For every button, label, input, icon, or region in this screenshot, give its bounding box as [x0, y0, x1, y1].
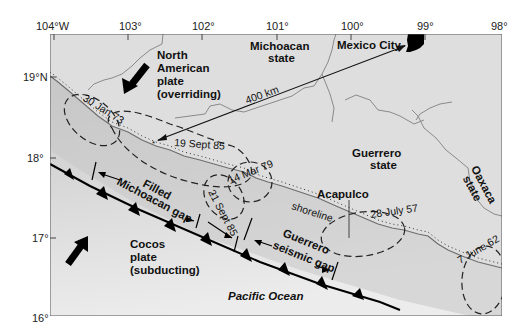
tick-18: 18° — [27, 152, 44, 164]
epicenter-marker-19-sept-85: * — [152, 139, 155, 148]
tick-16: 16° — [32, 312, 49, 324]
seismic-gap-map: 104°W 103° 102° 101° 100° 99° 98° 19°N 1… — [0, 0, 528, 334]
svg-text:North: North — [157, 49, 188, 61]
tick-99: 99° — [417, 20, 434, 32]
tick-98: 98° — [491, 20, 508, 32]
pacific-ocean-label: Pacific Ocean — [228, 290, 303, 302]
tick-102: 102° — [192, 20, 215, 32]
tick-19n: 19°N — [23, 71, 48, 83]
svg-text:Michoacan: Michoacan — [250, 40, 309, 52]
tick-100: 100° — [341, 20, 364, 32]
mexico-city-label: Mexico City — [337, 39, 402, 51]
svg-text:state: state — [370, 159, 397, 171]
tick-101: 101° — [266, 20, 289, 32]
tick-17: 17° — [32, 232, 49, 244]
svg-text:(subducting): (subducting) — [130, 264, 200, 276]
acapulco-label: Acapulco — [317, 188, 369, 200]
svg-text:plate: plate — [130, 251, 157, 263]
longitude-axis: 104°W 103° 102° 101° 100° 99° 98° — [36, 20, 508, 32]
tick-104w: 104°W — [36, 20, 70, 32]
svg-text:Guerrero: Guerrero — [352, 147, 401, 159]
svg-text:(overriding): (overriding) — [157, 88, 221, 100]
latitude-axis: 19°N 18° 17° 16° — [23, 71, 49, 324]
svg-text:plate: plate — [157, 75, 184, 87]
tick-103: 103° — [119, 20, 142, 32]
svg-text:American: American — [157, 62, 209, 74]
svg-text:state: state — [268, 52, 295, 64]
svg-text:Cocos: Cocos — [130, 238, 165, 250]
